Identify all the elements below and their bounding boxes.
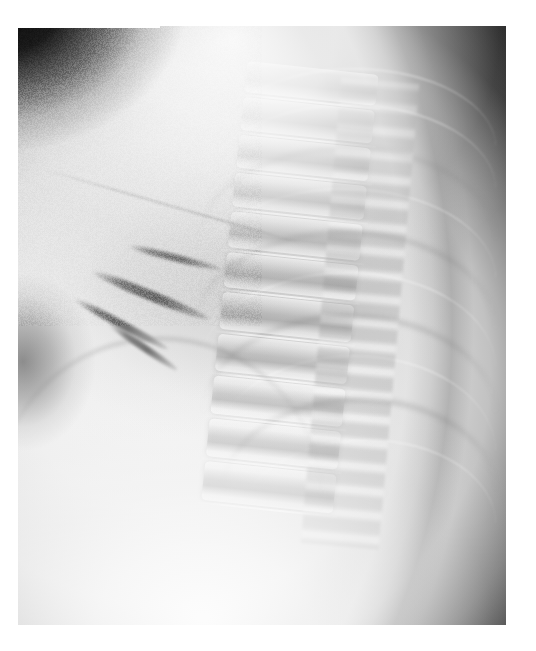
radiograph-film [18, 26, 506, 625]
radiograph-page [0, 0, 536, 651]
page-margin-right [506, 0, 536, 651]
page-margin-left [0, 0, 18, 651]
film-label-band [0, 0, 160, 28]
page-margin-bottom [0, 625, 536, 651]
